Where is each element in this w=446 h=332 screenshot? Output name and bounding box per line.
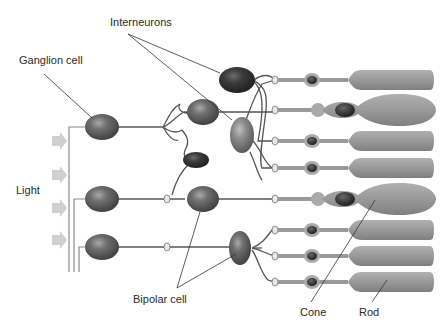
ganglion-cells xyxy=(85,114,119,260)
rod-1 xyxy=(278,70,434,90)
rod-label: Rod xyxy=(359,306,379,318)
retina-illustration xyxy=(0,0,446,332)
light-label: Light xyxy=(16,184,40,196)
rod-2 xyxy=(278,131,434,151)
interneurons-label: Interneurons xyxy=(110,16,172,28)
ganglion-cell-label: Ganglion cell xyxy=(19,54,83,66)
cone-2 xyxy=(278,183,436,215)
synapses xyxy=(164,76,278,286)
retina-diagram: Interneurons Ganglion cell Light Bipolar… xyxy=(0,0,446,332)
rod-5 xyxy=(278,246,434,266)
rod-3 xyxy=(278,158,434,178)
rod-6 xyxy=(278,272,434,292)
cone-1 xyxy=(278,94,436,126)
cone-label: Cone xyxy=(300,306,326,318)
bipolar-cell-label: Bipolar cell xyxy=(133,293,187,305)
light-arrows xyxy=(52,132,67,249)
ganglion-axons xyxy=(69,127,85,272)
photoreceptors xyxy=(278,70,436,292)
